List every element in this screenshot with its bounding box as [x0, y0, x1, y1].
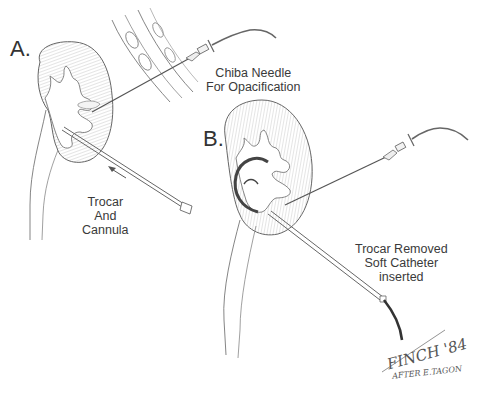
caption-line: Soft Catheter: [355, 256, 448, 270]
caption-line: Chiba Needle: [206, 66, 300, 80]
panel-b-caption: Trocar Removed Soft Catheter inserted: [355, 242, 448, 284]
caption-line: Trocar Removed: [355, 242, 448, 256]
panel-a-letter: A.: [10, 38, 31, 60]
caption-line: And: [82, 209, 129, 223]
caption-line: inserted: [355, 270, 448, 284]
panel-b-kidney: [224, 100, 312, 358]
chiba-needle-caption: Chiba Needle For Opacification: [206, 66, 300, 94]
illustration-canvas: [0, 0, 493, 394]
caption-line: Trocar: [82, 195, 129, 209]
panel-a-tissue-wall: [112, 8, 198, 102]
panel-b-letter: B.: [203, 128, 224, 150]
caption-line: For Opacification: [206, 80, 300, 94]
trocar-caption: Trocar And Cannula: [82, 195, 129, 237]
caption-line: Cannula: [82, 223, 129, 237]
